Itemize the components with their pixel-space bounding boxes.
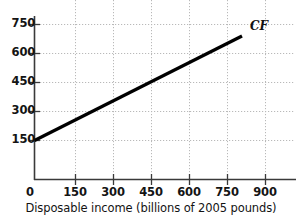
x-tick-label-600: 600 xyxy=(177,187,200,199)
x-axis-title: Disposable income (billions of 2005 poun… xyxy=(25,201,276,215)
x-tick-label-900: 900 xyxy=(253,187,276,199)
series-label-cf: CF xyxy=(250,20,268,32)
chart-figure: 750 600 450 300 150 0 150 300 450 600 75… xyxy=(0,0,302,216)
horizontal-gridlines xyxy=(34,25,294,141)
series-line-cf xyxy=(35,36,243,141)
y-tick-label-150: 150 xyxy=(12,134,35,146)
y-tick-label-300: 300 xyxy=(12,105,35,117)
y-tick-label-750: 750 xyxy=(12,18,35,30)
y-tick-label-600: 600 xyxy=(12,47,35,59)
vertical-gridlines xyxy=(76,0,266,179)
y-tick-label-450: 450 xyxy=(12,76,35,88)
x-tick-label-300: 300 xyxy=(101,187,124,199)
x-tick-label-0: 0 xyxy=(26,187,34,199)
x-tick-label-750: 750 xyxy=(215,187,238,199)
x-tick-label-450: 450 xyxy=(139,187,162,199)
x-tick-label-150: 150 xyxy=(63,187,86,199)
